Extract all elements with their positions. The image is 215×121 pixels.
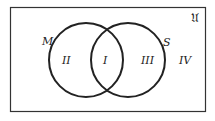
region-ii-label: II [61,54,71,67]
venn-diagram: 𝔘 M S II I III IV [0,0,215,121]
universe-rectangle [11,8,206,112]
region-iii-label: III [140,54,155,67]
universe-label: 𝔘 [191,11,199,25]
region-i-label: I [102,54,108,67]
set-s-label: S [163,36,171,49]
region-iv-label: IV [178,54,192,67]
set-m-label: M [41,35,54,48]
set-m-circle [49,23,123,97]
